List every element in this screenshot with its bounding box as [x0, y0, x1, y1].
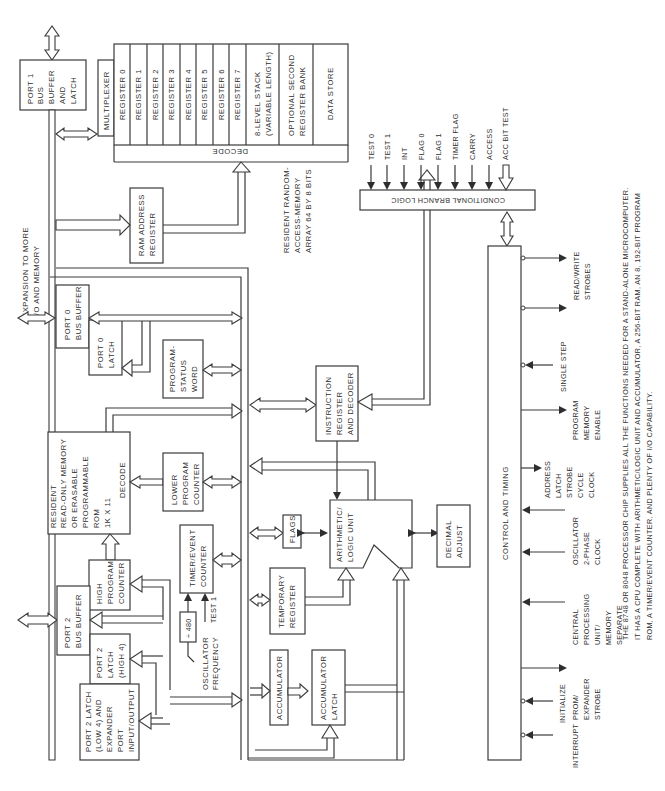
register-4-label: REGISTER 4: [184, 69, 193, 120]
svg-text:RESIDENT: RESIDENT: [49, 485, 58, 528]
multiplexer-label: MULTIPLEXER: [102, 71, 111, 130]
temp-register-label: TEMPORARY: [277, 575, 286, 628]
read-write-label: READ/WRITE: [572, 251, 581, 300]
ram-address-register: RAM ADDRESS REGISTER: [56, 162, 250, 263]
svg-text:PORT 2: PORT 2: [95, 647, 104, 678]
control-and-timing: CONTROL AND TIMING READ/WRITE STROBES SI…: [488, 246, 624, 768]
svg-text:I/O AND MEMORY: I/O AND MEMORY: [32, 246, 41, 318]
svg-text:STATUS: STATUS: [179, 360, 188, 392]
figure-caption: THE 8748 OR 8048 PROCESSOR CHIP SUPPLIES…: [621, 187, 654, 640]
svg-text:TEST 1: TEST 1: [383, 134, 392, 160]
svg-text:PORT 0: PORT 0: [96, 337, 105, 368]
decimal-adjust-label: DECIMAL: [444, 520, 453, 558]
svg-text:REGISTER: REGISTER: [148, 212, 157, 256]
svg-text:RAM ADDRESS: RAM ADDRESS: [137, 194, 146, 256]
accumulator-area: ACCUMULATOR ACCUMULATOR LATCH: [248, 650, 404, 758]
register-5-label: REGISTER 5: [200, 69, 209, 120]
stack-label: 8-LEVEL STACK: [253, 71, 262, 136]
svg-text:STROBES: STROBES: [583, 263, 592, 300]
svg-text:BUS BUFFER: BUS BUFFER: [74, 594, 83, 648]
svg-text:CYCLE: CYCLE: [576, 472, 585, 498]
port2-external-bus-arrow: [18, 613, 57, 627]
svg-text:ENABLE: ENABLE: [593, 410, 602, 440]
svg-text:BUFFER: BUFFER: [47, 70, 56, 104]
svg-text:AND DECODER: AND DECODER: [346, 372, 355, 435]
svg-text:1K X 11: 1K X 11: [103, 497, 112, 528]
ram-array: MULTIPLEXER REGISTER 0 REGISTER 1 REGIST…: [98, 44, 348, 162]
register-2-label: REGISTER 2: [151, 69, 160, 120]
svg-text:2-PHASE: 2-PHASE: [582, 532, 591, 565]
svg-text:HIGH: HIGH: [95, 583, 104, 604]
register-6-label: REGISTER 6: [217, 69, 226, 120]
svg-text:STROBE: STROBE: [565, 466, 574, 498]
conditional-branch-logic: CONDITIONAL BRANCH LOGIC TEST 0 TEST 1 I…: [360, 107, 535, 246]
svg-text:REGISTER: REGISTER: [288, 584, 297, 628]
svg-text:PORT: PORT: [116, 729, 125, 752]
svg-text:(VARIABLE LENGTH): (VARIABLE LENGTH): [264, 51, 273, 136]
svg-text:LATCH: LATCH: [69, 77, 78, 104]
register-3-label: REGISTER 3: [167, 69, 176, 120]
instruction-register: INSTRUCTION REGISTER AND DECODER: [250, 170, 435, 500]
rom-block: RESIDENT READ-ONLY MEMORY OR ERASABLE PR…: [48, 404, 242, 534]
address-latch-label: ADDRESS: [543, 461, 552, 498]
svg-text:ARRAY 64 BY 8 BITS: ARRAY 64 BY 8 BITS: [304, 169, 313, 253]
svg-text:FLAG 0: FLAG 0: [417, 133, 426, 160]
svg-text:OR ERASABLE: OR ERASABLE: [70, 468, 79, 528]
svg-text:INT: INT: [400, 147, 409, 160]
svg-text:(LOW 4) AND: (LOW 4) AND: [94, 699, 103, 752]
ram-decode-label: DECODE: [212, 147, 248, 156]
branch-logic-label: CONDITIONAL BRANCH LOGIC: [391, 196, 505, 205]
accumulator-latch-label: ACCUMULATOR: [319, 655, 328, 720]
svg-text:EXPANDER: EXPANDER: [105, 706, 114, 752]
svg-text:OSCILLATOR: OSCILLATOR: [201, 637, 210, 690]
svg-text:TIMER FLAG: TIMER FLAG: [451, 113, 460, 160]
svg-text:LATCH: LATCH: [106, 651, 115, 678]
expansion-label: EXPANSION TO MORE: [21, 227, 30, 318]
register-0-label: REGISTER 0: [118, 69, 127, 120]
alu-label: ARITHMETIC/: [335, 507, 344, 562]
svg-text:STROBE: STROBE: [593, 688, 602, 720]
interrupt-label: INTERRUPT: [571, 723, 580, 768]
svg-text:(HIGH 4): (HIGH 4): [117, 643, 126, 678]
internal-bus-to-multiplexer: [56, 128, 97, 140]
second-bank-label: OPTIONAL SECOND: [287, 54, 296, 136]
svg-text:PROGRAM-: PROGRAM-: [168, 345, 177, 392]
program-status-word: PROGRAM- STATUS WORD: [163, 340, 241, 398]
svg-text:FLAG 1: FLAG 1: [434, 133, 443, 160]
svg-text:MEMORY: MEMORY: [582, 406, 591, 440]
svg-text:PROCESSING: PROCESSING: [582, 594, 591, 645]
prom-expander-label: PROM/: [571, 695, 580, 720]
svg-text:PORT 2 LATCH: PORT 2 LATCH: [84, 691, 93, 752]
ram-caption: RESIDENT RANDOM- ACCESS-MEMORY ARRAY 64 …: [282, 167, 313, 253]
caption-line-3: ROM, A TIMER/EVENT COUNTER, AND PLENTY O…: [645, 391, 654, 640]
caption-line-1: THE 8748 OR 8048 PROCESSOR CHIP SUPPLIES…: [621, 187, 630, 640]
svg-text:TEST 0: TEST 0: [367, 134, 376, 160]
svg-text:READ-ONLY MEMORY: READ-ONLY MEMORY: [59, 439, 68, 528]
svg-text:REGISTER: REGISTER: [335, 391, 344, 435]
svg-text:INPUT/OUTPUT: INPUT/OUTPUT: [127, 689, 136, 752]
svg-text:REGISTER BANK: REGISTER BANK: [298, 67, 307, 136]
svg-text:ROM: ROM: [92, 508, 101, 528]
svg-text:RESIDENT RANDOM-: RESIDENT RANDOM-: [282, 167, 291, 253]
svg-text:PORT 2: PORT 2: [63, 617, 72, 648]
caption-line-2: IT HAS A CPU COMPLETE WITH ARITHMETIC/LO…: [633, 193, 642, 640]
program-memory-enable-label: PROGRAM: [571, 400, 580, 440]
svg-text:PROGRAM: PROGRAM: [106, 561, 115, 604]
initialize-label: INITIALIZE: [558, 684, 567, 723]
svg-text:ACC BIT TEST: ACC BIT TEST: [501, 107, 510, 160]
oscillator-clock-label: OSCILLATOR: [571, 517, 580, 565]
svg-text:PORT 0: PORT 0: [63, 309, 72, 340]
svg-text:LOWER: LOWER: [170, 474, 179, 505]
flags-label: FLAGS: [288, 515, 297, 543]
register-7-label: REGISTER 7: [233, 69, 242, 120]
single-step-label: SINGLE STEP: [559, 341, 568, 392]
rom-decode-label: DECODE: [118, 462, 127, 498]
port1-label: PORT 1: [26, 73, 35, 104]
svg-text:COUNTER: COUNTER: [117, 562, 126, 604]
branch-inputs: TEST 0 TEST 1 INT FLAG 0 FLAG 1 TIMER FL…: [367, 107, 513, 190]
timer-event-counter: TIMER/EVENT COUNTER TEST 1 ÷ 480 OSCILLA…: [180, 525, 241, 690]
svg-text:LATCH: LATCH: [107, 341, 116, 368]
svg-text:LATCH: LATCH: [554, 473, 563, 498]
svg-text:AND: AND: [58, 86, 67, 104]
svg-text:BUS BUFFER: BUS BUFFER: [74, 286, 83, 340]
